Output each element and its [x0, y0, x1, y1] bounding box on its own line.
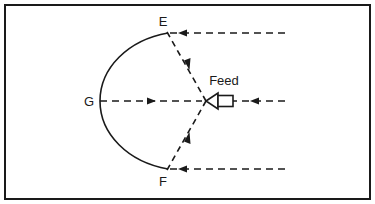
ray-incoming-top-arrow-icon: [178, 30, 187, 37]
label-vertex: G: [84, 94, 94, 109]
ray-axis-left-arrow-icon: [147, 98, 156, 105]
ray-axis-right: [232, 98, 285, 105]
label-rim-bottom: F: [159, 174, 167, 189]
feed-horn-cone: [206, 93, 218, 109]
ray-incoming-bottom-arrow-icon: [178, 166, 187, 173]
feed-horn-assembly: [206, 93, 233, 109]
label-rim-top: E: [159, 14, 168, 29]
ray-axis-right-arrow-icon: [250, 98, 259, 105]
parabolic-antenna-diagram: E F G Feed: [0, 0, 375, 204]
figure-frame: E F G Feed: [0, 0, 375, 204]
ray-incoming-top: [170, 30, 285, 37]
ray-reflected-top-line: [167, 32, 206, 101]
ray-axis-left: [100, 98, 202, 105]
ray-reflected-bottom: [167, 101, 206, 170]
label-feed: Feed: [209, 73, 239, 88]
ray-incoming-bottom: [170, 166, 285, 173]
parabolic-reflector-curve: [100, 33, 168, 169]
feed-waveguide: [218, 96, 233, 107]
ray-reflected-bottom-line: [167, 101, 206, 170]
ray-reflected-top: [167, 32, 206, 101]
